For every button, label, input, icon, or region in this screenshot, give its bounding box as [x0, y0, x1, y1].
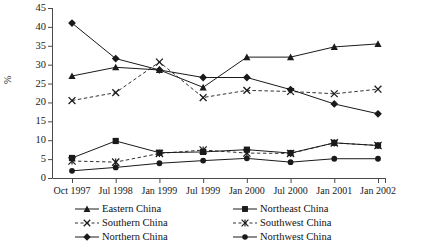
- data-point-cross: [84, 220, 90, 226]
- y-tick-label: 0: [24, 173, 46, 184]
- data-point-diamond: [330, 100, 338, 108]
- y-tick-label: 35: [24, 41, 46, 52]
- data-point-asterisk: [242, 220, 249, 227]
- data-point-circle: [157, 160, 163, 166]
- data-point-diamond: [199, 74, 207, 82]
- data-point-diamond: [243, 74, 251, 82]
- data-point-circle: [375, 156, 381, 162]
- legend-marker-cross-icon: [74, 216, 100, 230]
- x-tick-label: Jan 2001: [316, 186, 352, 196]
- series-northwest-china: [69, 155, 381, 173]
- data-point-square: [242, 206, 248, 212]
- y-tick-label: 15: [24, 116, 46, 127]
- legend-marker-asterisk-icon: [232, 216, 258, 230]
- series-line: [72, 44, 378, 87]
- series-layer: [52, 8, 386, 178]
- data-point-circle: [288, 159, 294, 165]
- legend-marker-circle-icon: [232, 230, 258, 244]
- plot-area: [52, 8, 386, 178]
- legend-label: Southern China: [102, 217, 168, 229]
- x-tick-label: Jan 2000: [229, 186, 265, 196]
- data-point-circle: [331, 156, 337, 162]
- x-tick-label: Jul 1998: [99, 186, 133, 196]
- legend-label: Northeast China: [260, 203, 329, 215]
- y-tick-label: 40: [24, 22, 46, 33]
- data-point-diamond: [374, 110, 382, 118]
- x-axis-tick-labels: Oct 1997Jul 1998Jan 1999Jul 1999Jan 2000…: [52, 182, 386, 196]
- x-tick-label: Oct 1997: [54, 186, 91, 196]
- legend-label: Northwest China: [260, 231, 331, 243]
- x-tick-label: Jan 2002: [360, 186, 396, 196]
- data-point-circle: [69, 168, 75, 174]
- series-eastern-china: [68, 40, 381, 90]
- data-point-circle: [200, 158, 206, 164]
- data-point-circle: [113, 165, 119, 171]
- y-tick-label: 45: [24, 3, 46, 14]
- legend-label: Northern China: [102, 231, 168, 243]
- data-point-cross: [156, 59, 163, 66]
- data-point-circle: [242, 234, 248, 240]
- legend-marker-diamond-icon: [74, 230, 100, 244]
- x-tick-label: Jul 2000: [273, 186, 307, 196]
- data-point-diamond: [83, 233, 90, 240]
- y-axis-title: %: [2, 76, 13, 84]
- x-tick-label: Jul 1999: [186, 186, 220, 196]
- y-tick-label: 5: [24, 154, 46, 165]
- y-axis-tick-labels: 454035302520151050: [22, 0, 46, 186]
- y-tick-label: 10: [24, 135, 46, 146]
- legend-marker-square-icon: [232, 202, 258, 216]
- data-point-square: [113, 138, 119, 144]
- x-tick-label: Jan 1999: [142, 186, 178, 196]
- legend-label: Eastern China: [102, 203, 161, 215]
- data-point-triangle: [200, 84, 207, 91]
- chart-legend: Eastern ChinaNortheast ChinaSouthern Chi…: [60, 202, 390, 246]
- y-tick-label: 25: [24, 79, 46, 90]
- data-point-circle: [244, 155, 250, 161]
- legend-label: Southwest China: [260, 217, 331, 229]
- y-tick-label: 20: [24, 97, 46, 108]
- legend-marker-triangle-icon: [74, 202, 100, 216]
- line-chart: % 454035302520151050 Oct 1997Jul 1998Jan…: [0, 0, 439, 248]
- y-tick-label: 30: [24, 60, 46, 71]
- data-point-diamond: [287, 86, 295, 94]
